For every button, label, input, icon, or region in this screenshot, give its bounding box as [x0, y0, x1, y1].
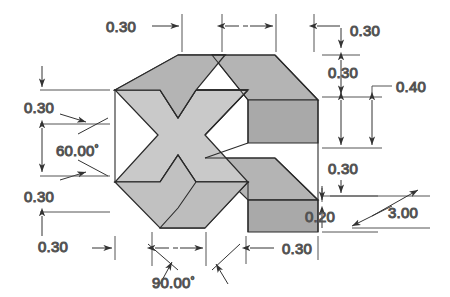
- isometric-drawing-svg: 0.30 0.30 0.30 0.40 0.30 0.20: [0, 0, 450, 297]
- dim-label-top-right: 0.30: [350, 22, 380, 39]
- dim-label-left-bottom: 0.30: [38, 238, 68, 255]
- dim-label-top-left: 0.30: [106, 18, 136, 35]
- dim-label-left-angle: 60.00°: [56, 142, 99, 159]
- dim-label-left-lower: 0.30: [24, 188, 54, 205]
- dim-label-right-lower: 0.30: [328, 160, 358, 177]
- dim-label-right-upper: 0.30: [328, 64, 358, 81]
- dim-label-right-outer: 0.40: [396, 78, 426, 95]
- dim-label-right-bottom: 0.20: [305, 208, 335, 225]
- dim-label-left-upper: 0.30: [24, 99, 54, 116]
- dim-label-depth: 3.00: [388, 204, 418, 221]
- dim-label-bottom-angle: 90.00°: [152, 274, 195, 291]
- dim-label-bottom-right: 0.30: [282, 240, 312, 257]
- technical-drawing-canvas: 0.30 0.30 0.30 0.40 0.30 0.20: [0, 0, 450, 297]
- face-right-upper-arm-side: [248, 100, 318, 143]
